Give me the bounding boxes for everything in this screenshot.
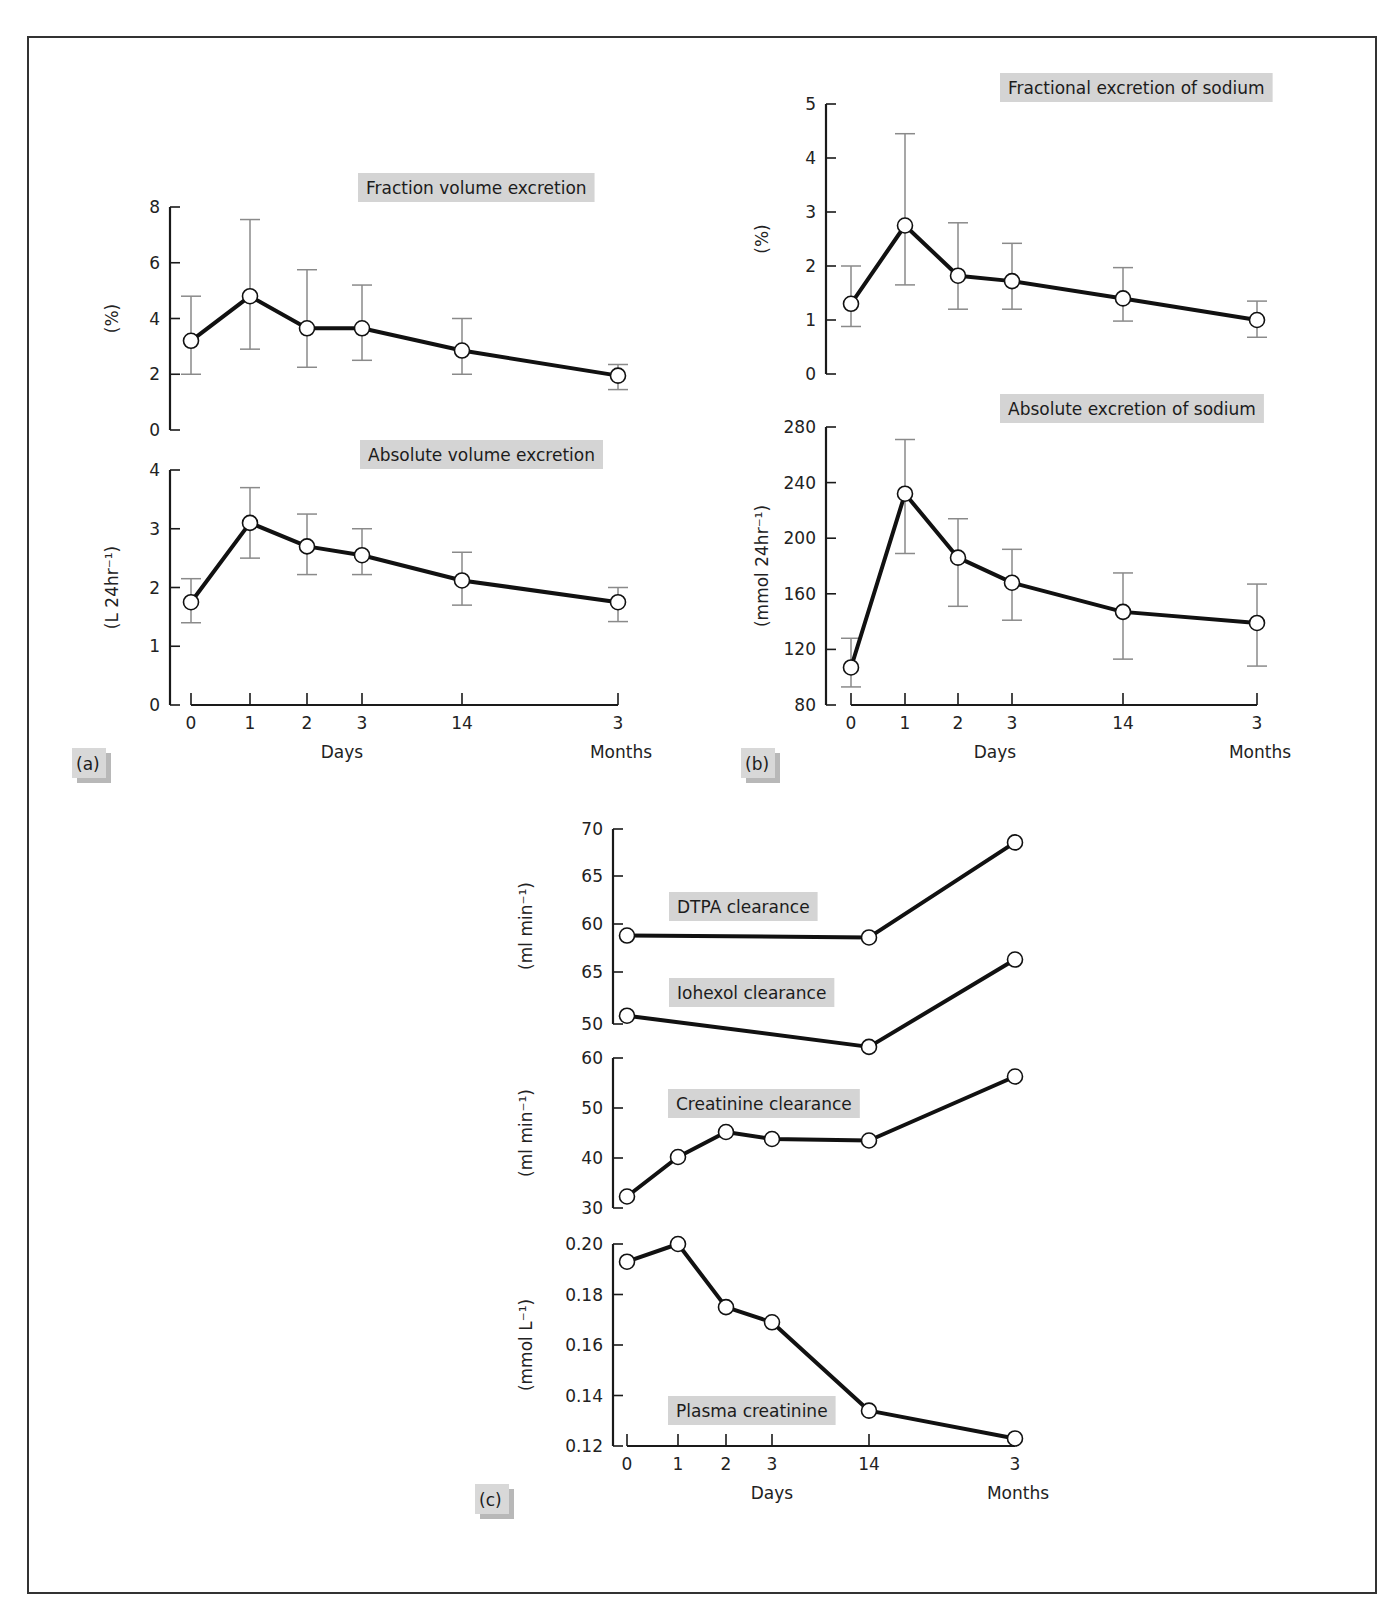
fraction-volume-excretion-chart: 02468(%)Fraction volume excretion <box>102 173 628 440</box>
y-tick-label: 160 <box>784 584 816 604</box>
x-axis-label-days: Days <box>751 1483 794 1503</box>
dtpa-title: DTPA clearance <box>677 897 810 917</box>
x-tick-label: 14 <box>1112 713 1134 733</box>
data-point <box>355 548 370 563</box>
data-point <box>620 1189 635 1204</box>
series-line <box>191 523 618 602</box>
y-tick-label: 0 <box>149 695 160 715</box>
data-point <box>1008 1431 1023 1446</box>
series-line <box>191 296 618 375</box>
x-axis-label-days: Days <box>974 742 1017 762</box>
creatinine-clearance-chart-title: Creatinine clearance <box>676 1094 852 1114</box>
data-point <box>862 1133 877 1148</box>
iohexol-title: Iohexol clearance <box>677 983 826 1003</box>
y-tick-label: 5 <box>805 94 816 114</box>
data-point <box>620 1008 635 1023</box>
y-axis-label: (%) <box>752 224 772 253</box>
x-tick-label: 1 <box>245 713 256 733</box>
x-tick-label: 2 <box>721 1454 732 1474</box>
fraction-volume-excretion-chart-title: Fraction volume excretion <box>366 178 587 198</box>
figure: 02468(%)Fraction volume excretion01234(L… <box>0 0 1386 1605</box>
data-point <box>1250 313 1265 328</box>
y-tick-label: 0.14 <box>565 1386 603 1406</box>
y-tick-label: 4 <box>149 309 160 329</box>
y-axis-label: (ml min⁻¹) <box>516 882 536 970</box>
data-point <box>620 928 635 943</box>
x-tick-label: 1 <box>673 1454 684 1474</box>
data-point <box>862 930 877 945</box>
x-tick-label: 3 <box>357 713 368 733</box>
data-point <box>719 1300 734 1315</box>
series-line <box>851 494 1257 668</box>
data-point <box>898 218 913 233</box>
data-point <box>455 343 470 358</box>
x-tick-label: 3 <box>767 1454 778 1474</box>
y-tick-label: 240 <box>784 473 816 493</box>
absolute-sodium-excretion-chart: 80120160200240280(mmol 24hr⁻¹)0123143Day… <box>752 394 1291 762</box>
data-point <box>300 321 315 336</box>
y-tick-label: 4 <box>805 148 816 168</box>
y-tick-label: 0.18 <box>565 1285 603 1305</box>
y-axis-label: (mmol 24hr⁻¹) <box>752 505 772 627</box>
panel-label-a: (a) <box>72 748 111 783</box>
data-point <box>300 539 315 554</box>
x-tick-label: 14 <box>858 1454 880 1474</box>
x-tick-label: 0 <box>622 1454 633 1474</box>
y-tick-label: 0.12 <box>565 1436 603 1456</box>
y-tick-label: 65 <box>581 866 603 886</box>
x-axis-label-days: Days <box>321 742 364 762</box>
data-point <box>611 595 626 610</box>
data-point <box>620 1254 635 1269</box>
data-point <box>184 333 199 348</box>
y-tick-label: 0 <box>149 420 160 440</box>
y-tick-label: 40 <box>581 1148 603 1168</box>
x-tick-label: 0 <box>186 713 197 733</box>
fractional-sodium-excretion-chart-title: Fractional excretion of sodium <box>1008 78 1265 98</box>
data-point <box>844 296 859 311</box>
x-axis-label-months: Months <box>590 742 652 762</box>
absolute-volume-excretion-chart: 01234(L 24hr⁻¹)0123143DaysMonthsAbsolute… <box>102 440 652 762</box>
x-tick-label: 14 <box>451 713 473 733</box>
plasma-creatinine-chart-title: Plasma creatinine <box>676 1401 828 1421</box>
panel-label-a-text: (a) <box>76 754 100 774</box>
y-tick-label: 0.20 <box>565 1234 603 1254</box>
y-tick-label: 200 <box>784 528 816 548</box>
y-tick-label: 3 <box>149 519 160 539</box>
absolute-volume-excretion-chart-title: Absolute volume excretion <box>368 445 595 465</box>
y-tick-label: 30 <box>581 1198 603 1218</box>
data-point <box>765 1315 780 1330</box>
y-axis-label: (L 24hr⁻¹) <box>102 546 122 629</box>
data-point <box>455 573 470 588</box>
y-tick-label: 8 <box>149 197 160 217</box>
data-point <box>844 660 859 675</box>
y-tick-label: 0 <box>805 364 816 384</box>
data-point <box>719 1125 734 1140</box>
y-tick-label: 4 <box>149 460 160 480</box>
dtpa-line <box>627 842 1015 937</box>
y-tick-label: 80 <box>794 695 816 715</box>
data-point <box>1005 274 1020 289</box>
data-point <box>243 515 258 530</box>
data-point <box>1250 615 1265 630</box>
data-point <box>1008 835 1023 850</box>
y-axis-label: (mmol L⁻¹) <box>516 1299 536 1391</box>
data-point <box>184 595 199 610</box>
y-tick-label: 2 <box>805 256 816 276</box>
panel-label-b-text: (b) <box>745 754 769 774</box>
y-tick-label: 1 <box>149 636 160 656</box>
x-axis-label-months: Months <box>987 1483 1049 1503</box>
data-point <box>951 550 966 565</box>
x-tick-label: 3 <box>613 713 624 733</box>
x-axis-label-months: Months <box>1229 742 1291 762</box>
panel-label-b: (b) <box>741 748 780 783</box>
y-tick-label: 0.16 <box>565 1335 603 1355</box>
plasma-creatinine-chart: 0.120.140.160.180.20(mmol L⁻¹)0123143Day… <box>516 1234 1049 1503</box>
data-point <box>671 1150 686 1165</box>
y-axis-label: (%) <box>102 304 122 333</box>
data-point <box>1005 575 1020 590</box>
dtpa-iohexol-clearance-chart: 7065606550(ml min⁻¹)DTPA clearanceIohexo… <box>516 819 1023 1054</box>
plots-layer: 02468(%)Fraction volume excretion01234(L… <box>72 73 1291 1519</box>
y-tick-label: 1 <box>805 310 816 330</box>
y-tick-label: 65 <box>581 962 603 982</box>
series-line <box>851 226 1257 321</box>
